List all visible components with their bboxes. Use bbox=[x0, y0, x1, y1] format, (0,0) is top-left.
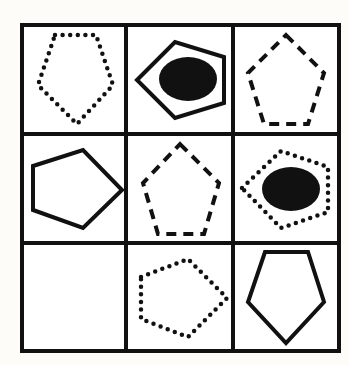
black-ellipse-icon bbox=[262, 167, 320, 211]
black-ellipse-icon bbox=[159, 57, 217, 101]
puzzle-grid bbox=[0, 0, 349, 365]
